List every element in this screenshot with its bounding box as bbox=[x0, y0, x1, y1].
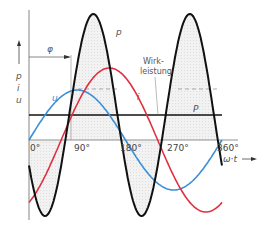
right-arrow-icon bbox=[251, 157, 257, 161]
curve-label-p: p bbox=[115, 27, 122, 37]
x-axis-label: ω·t bbox=[223, 154, 237, 164]
annotation-leader bbox=[155, 77, 158, 115]
annotation-leistung: leistung bbox=[140, 67, 172, 76]
axis-label-i: i bbox=[17, 83, 20, 93]
phi-arrowhead-icon bbox=[64, 55, 71, 59]
power-diagram: φ p i u u i p P Wirk- leistung 0° 90° 18… bbox=[0, 0, 266, 227]
curve-label-P: P bbox=[193, 104, 199, 114]
tick-180: 180° bbox=[120, 143, 142, 153]
tick-0: 0° bbox=[30, 143, 40, 153]
tick-270: 270° bbox=[167, 143, 189, 153]
up-arrow-icon bbox=[17, 40, 21, 46]
phi-label: φ bbox=[47, 44, 53, 54]
tick-360: 360° bbox=[217, 143, 239, 153]
tick-90: 90° bbox=[74, 143, 90, 153]
axis-label-p: p bbox=[15, 71, 22, 81]
axis-label-u: u bbox=[16, 95, 22, 105]
annotation-wirk: Wirk- bbox=[143, 57, 164, 66]
curve-label-u: u bbox=[52, 93, 58, 103]
